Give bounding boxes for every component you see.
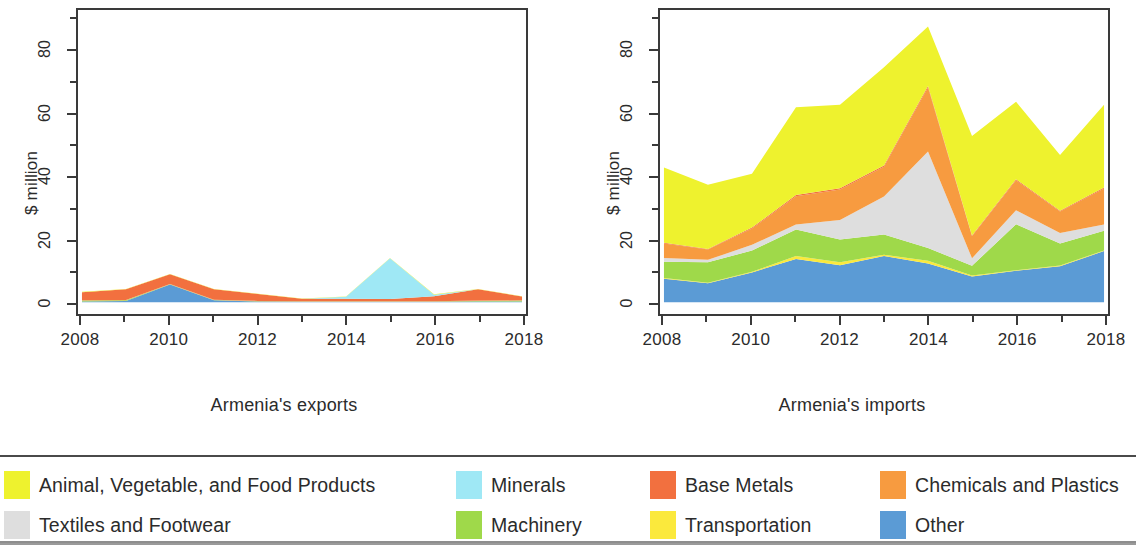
legend-swatch-other [880, 511, 906, 539]
legend-item-label: Other [915, 514, 964, 537]
x-axis-tick [390, 316, 392, 322]
y-axis-tick-label: 80 [618, 32, 636, 66]
x-axis-tick-label: 2014 [898, 330, 958, 350]
y-axis-tick-label: 40 [36, 159, 54, 193]
y-axis-tick-label: 20 [618, 223, 636, 257]
legend-swatch-base-metals [650, 471, 676, 499]
x-axis-tick [839, 316, 841, 325]
x-axis-tick-label: 2016 [987, 330, 1047, 350]
x-axis-tick-label: 2010 [721, 330, 781, 350]
y-axis-tick [649, 303, 658, 305]
legend-item-label: Animal, Vegetable, and Food Products [39, 474, 375, 497]
y-axis-tick [70, 271, 76, 273]
x-axis-tick [1016, 316, 1018, 325]
legend-swatch-minerals [456, 471, 482, 499]
y-axis-tick [70, 208, 76, 210]
legend-swatch-transportation [650, 511, 676, 539]
x-axis-tick [212, 316, 214, 322]
x-axis-tick [168, 316, 170, 325]
y-axis-tick-label: 60 [36, 96, 54, 130]
chart-panel-imports: $ million Armenia's imports 020406080200… [568, 0, 1136, 435]
x-axis-tick-label: 2012 [228, 330, 288, 350]
plot-area-exports [76, 8, 528, 316]
x-axis-tick [434, 316, 436, 325]
x-axis-tick [123, 316, 125, 322]
figure-root: $ million Armenia's exports 020406080200… [0, 0, 1136, 545]
y-axis-tick-label: 0 [618, 286, 636, 320]
legend-item: Other [880, 511, 964, 539]
legend-swatch-machinery [456, 511, 482, 539]
y-axis-tick [67, 49, 76, 51]
y-axis-tick [67, 240, 76, 242]
legend-item-label: Chemicals and Plastics [915, 474, 1119, 497]
x-axis-tick [750, 316, 752, 325]
y-axis-tick [649, 176, 658, 178]
x-axis-tick [1061, 316, 1063, 322]
x-axis-tick-label: 2012 [810, 330, 870, 350]
x-axis-tick [794, 316, 796, 322]
y-axis-tick-label: 0 [36, 286, 54, 320]
y-axis-tick [652, 208, 658, 210]
chart-panel-exports: $ million Armenia's exports 020406080200… [0, 0, 568, 435]
x-axis-tick [661, 316, 663, 325]
y-axis-tick [70, 144, 76, 146]
plot-area-imports [658, 8, 1110, 316]
x-axis-tick [883, 316, 885, 322]
legend-item: Minerals [456, 471, 566, 499]
legend-swatch-chemicals-plastics [880, 471, 906, 499]
x-axis-tick-label: 2014 [316, 330, 376, 350]
x-axis-tick [479, 316, 481, 322]
x-axis-tick [257, 316, 259, 325]
y-axis-tick-label: 20 [36, 223, 54, 257]
x-axis-tick-label: 2010 [139, 330, 199, 350]
legend-item: Chemicals and Plastics [880, 471, 1119, 499]
y-axis-tick [652, 271, 658, 273]
y-axis-tick-label: 60 [618, 96, 636, 130]
y-axis-tick [652, 17, 658, 19]
panel-caption-exports: Armenia's exports [0, 395, 568, 416]
legend-item: Base Metals [650, 471, 793, 499]
legend-item: Textiles and Footwear [4, 511, 231, 539]
area-chart-imports [660, 10, 1108, 314]
y-axis-tick [649, 49, 658, 51]
y-axis-tick [652, 81, 658, 83]
y-axis-tick [67, 176, 76, 178]
y-axis-tick [67, 113, 76, 115]
legend-item-label: Base Metals [685, 474, 793, 497]
legend-item: Machinery [456, 511, 582, 539]
y-axis-tick-label: 80 [36, 32, 54, 66]
legend-item-label: Transportation [685, 514, 811, 537]
y-axis-tick [70, 81, 76, 83]
x-axis-tick [927, 316, 929, 325]
legend-item: Animal, Vegetable, and Food Products [4, 471, 375, 499]
y-axis-tick [649, 240, 658, 242]
x-axis-tick [523, 316, 525, 325]
x-axis-tick [705, 316, 707, 322]
x-axis-tick [79, 316, 81, 325]
x-axis-tick-label: 2018 [494, 330, 554, 350]
bottom-divider [0, 541, 1136, 543]
legend-item-label: Textiles and Footwear [39, 514, 231, 537]
x-axis-tick [1105, 316, 1107, 325]
x-axis-tick [345, 316, 347, 325]
y-axis-tick [67, 303, 76, 305]
legend: Animal, Vegetable, and Food ProductsMine… [0, 455, 1136, 545]
legend-item-label: Machinery [491, 514, 582, 537]
legend-swatch-textiles-footwear [4, 511, 30, 539]
x-axis-tick-label: 2008 [50, 330, 110, 350]
y-axis-tick-label: 40 [618, 159, 636, 193]
x-axis-tick-label: 2008 [632, 330, 692, 350]
y-axis-tick [649, 113, 658, 115]
panel-caption-imports: Armenia's imports [568, 395, 1136, 416]
legend-item: Transportation [650, 511, 811, 539]
x-axis-tick [301, 316, 303, 322]
x-axis-tick-label: 2016 [405, 330, 465, 350]
x-axis-tick [972, 316, 974, 322]
area-chart-exports [78, 10, 526, 314]
y-axis-tick [70, 17, 76, 19]
legend-item-label: Minerals [491, 474, 566, 497]
y-axis-tick [652, 144, 658, 146]
x-axis-tick-label: 2018 [1076, 330, 1136, 350]
legend-swatch-animal-vegetable-food [4, 471, 30, 499]
